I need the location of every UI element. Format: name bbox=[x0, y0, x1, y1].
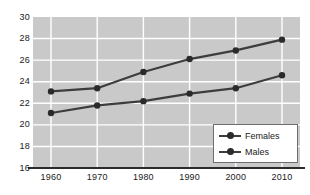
legend-item-label: Females bbox=[245, 131, 280, 141]
y-axis-tick-label: 20 bbox=[4, 120, 30, 129]
x-axis-tick-label: 1970 bbox=[79, 173, 115, 182]
y-axis-tick-label: 30 bbox=[4, 13, 30, 22]
x-axis-tick-labels: 196019701980199020002010 bbox=[0, 173, 310, 187]
x-axis-tick-label: 1990 bbox=[172, 173, 208, 182]
line-chart: 3028262422201816 19601970198019902000201… bbox=[0, 0, 310, 195]
x-axis-tick-label: 2010 bbox=[264, 173, 300, 182]
y-axis-tick-label: 16 bbox=[4, 164, 30, 173]
x-axis-tick-label: 1960 bbox=[33, 173, 69, 182]
y-axis-tick-label: 22 bbox=[4, 99, 30, 108]
screenshot-root: 3028262422201816 19601970198019902000201… bbox=[0, 0, 310, 195]
y-axis-tick-labels: 3028262422201816 bbox=[0, 0, 30, 195]
legend-item-females: Females bbox=[219, 129, 280, 143]
line-marker-icon bbox=[219, 147, 241, 157]
x-axis-tick-label: 1980 bbox=[125, 173, 161, 182]
chart-legend: Females Males bbox=[213, 124, 298, 163]
y-axis-tick-label: 24 bbox=[4, 77, 30, 86]
y-axis-tick-label: 18 bbox=[4, 142, 30, 151]
y-axis-tick-label: 26 bbox=[4, 56, 30, 65]
x-axis-tick-label: 2000 bbox=[218, 173, 254, 182]
line-marker-icon bbox=[219, 131, 241, 141]
legend-item-males: Males bbox=[219, 145, 269, 159]
legend-item-label: Males bbox=[245, 147, 269, 157]
x-axis-line bbox=[28, 167, 305, 169]
series-layer bbox=[48, 36, 285, 116]
y-axis-tick-label: 28 bbox=[4, 34, 30, 43]
